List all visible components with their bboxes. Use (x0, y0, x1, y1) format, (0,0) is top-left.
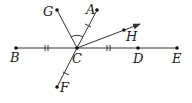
label-B: B (9, 50, 20, 65)
point-C (75, 46, 79, 50)
label-H: H (125, 29, 138, 44)
angle-arc-GCA (71, 35, 83, 37)
label-E: E (171, 51, 182, 66)
point-E (175, 46, 179, 50)
point-D (136, 46, 140, 50)
label-G: G (43, 4, 53, 19)
label-D: D (132, 51, 144, 66)
label-F: F (59, 80, 70, 95)
geometry-diagram: B C D E G A H F (0, 0, 192, 103)
point-F (55, 85, 59, 89)
point-A (95, 8, 99, 12)
label-C: C (72, 51, 82, 66)
segment-CG (57, 10, 77, 48)
label-A: A (85, 2, 95, 17)
point-G (55, 8, 59, 12)
